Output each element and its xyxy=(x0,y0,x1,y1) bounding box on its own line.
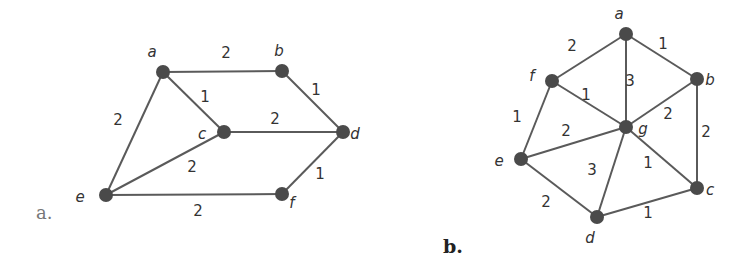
graph-b: 213122123121abcdefg xyxy=(494,5,714,247)
graph-a: 21212212abcdef xyxy=(75,42,360,220)
vertex-b xyxy=(690,72,704,86)
vertex-label-e: e xyxy=(494,152,503,170)
edge-weight-a-c: 1 xyxy=(200,88,210,106)
edge-b-g xyxy=(626,79,697,127)
edge-weight-f-e: 1 xyxy=(512,108,522,126)
edge-weight-f-g: 1 xyxy=(581,86,591,104)
edge-e-d xyxy=(521,159,597,217)
vertex-f xyxy=(545,74,559,88)
vertex-label-b: b xyxy=(274,42,284,60)
vertex-label-f: f xyxy=(289,194,297,212)
edge-weight-g-c: 1 xyxy=(643,154,653,172)
edge-weight-e-d: 2 xyxy=(541,193,551,211)
caption-b: b. xyxy=(443,235,463,257)
edge-weight-a-b: 2 xyxy=(221,44,231,62)
graph-diagram: 21212212abcdef 213122123121abcdefg a. b. xyxy=(0,0,752,261)
edge-g-c xyxy=(626,127,697,188)
vertex-label-a: a xyxy=(147,43,156,61)
vertex-label-f: f xyxy=(529,67,537,85)
edge-a-e xyxy=(106,72,163,195)
vertex-label-d: d xyxy=(585,229,595,247)
vertex-e xyxy=(514,152,528,166)
edge-weight-d-c: 1 xyxy=(643,204,653,222)
vertex-label-c: c xyxy=(198,125,207,143)
vertex-label-g: g xyxy=(638,120,648,138)
edge-weight-b-g: 2 xyxy=(663,105,673,123)
caption-a: a. xyxy=(36,202,52,223)
edge-f-e xyxy=(521,81,552,159)
edge-weight-c-d: 2 xyxy=(270,110,280,128)
vertex-label-b: b xyxy=(705,71,715,89)
edge-weight-a-f: 2 xyxy=(567,37,577,55)
edge-weight-a-e: 2 xyxy=(113,111,123,129)
edge-weight-a-g: 3 xyxy=(625,72,635,90)
vertex-c xyxy=(217,125,231,139)
edge-a-b xyxy=(163,71,282,72)
edge-weight-e-f: 2 xyxy=(193,202,203,220)
edge-a-c xyxy=(163,72,224,132)
vertex-label-e: e xyxy=(75,188,84,206)
edge-e-f xyxy=(106,194,282,195)
edge-weight-b-d: 1 xyxy=(311,81,321,99)
edge-weight-g-d: 3 xyxy=(587,161,597,179)
vertex-e xyxy=(99,188,113,202)
vertex-b xyxy=(275,64,289,78)
edge-c-e xyxy=(106,132,224,195)
vertex-label-c: c xyxy=(706,181,715,199)
edge-weight-e-g: 2 xyxy=(561,122,571,140)
vertex-label-d: d xyxy=(350,125,360,143)
edge-weight-c-e: 2 xyxy=(187,158,197,176)
edge-g-d xyxy=(597,127,626,217)
edge-e-g xyxy=(521,127,626,159)
vertex-a xyxy=(619,27,633,41)
vertex-g xyxy=(619,120,633,134)
edge-d-f xyxy=(282,132,343,194)
vertex-c xyxy=(690,181,704,195)
edge-weight-d-f: 1 xyxy=(315,165,325,183)
edge-weight-b-c: 2 xyxy=(701,123,711,141)
vertex-d xyxy=(336,125,350,139)
vertex-d xyxy=(590,210,604,224)
vertex-f xyxy=(275,187,289,201)
edge-a-f xyxy=(552,34,626,81)
edge-weight-a-b: 1 xyxy=(658,35,668,53)
vertex-a xyxy=(156,65,170,79)
vertex-label-a: a xyxy=(614,5,623,23)
